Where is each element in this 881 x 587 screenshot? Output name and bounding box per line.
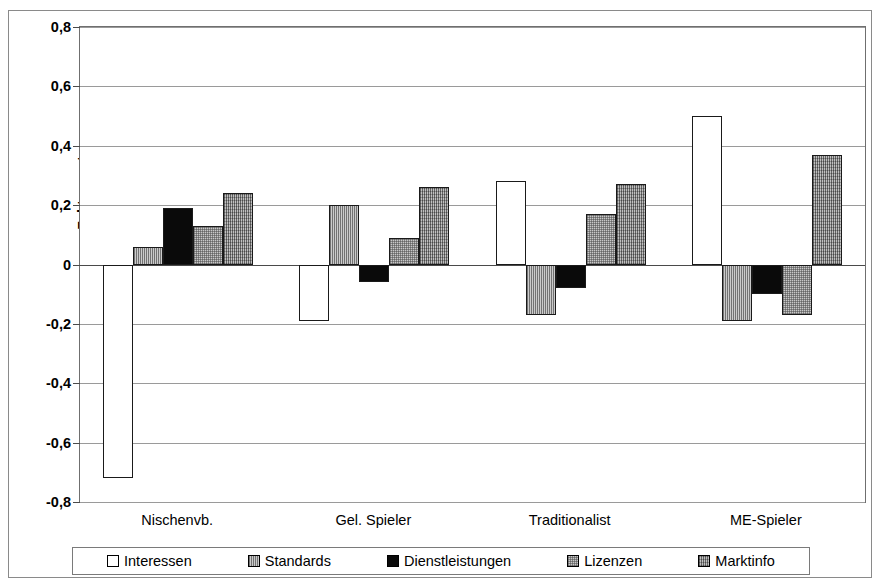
bar-traditionalist-marktinfo — [616, 184, 646, 264]
y-axis-tick-mark — [73, 86, 80, 87]
y-axis-tick-mark — [73, 146, 80, 147]
bar-group-gel-spieler — [276, 27, 472, 502]
y-axis-tick-label: -0,4 — [46, 375, 71, 391]
bar-gel-spieler-standards — [329, 205, 359, 264]
bar-me-spieler-interessen — [692, 116, 722, 264]
bar-traditionalist-interessen — [496, 181, 526, 264]
bar-gel-spieler-interessen — [299, 265, 329, 321]
legend-label: Dienstleistungen — [404, 553, 511, 569]
bar-group-me-spieler — [669, 27, 865, 502]
y-axis-tick-mark — [73, 27, 80, 28]
bar-gel-spieler-dienstleistungen — [359, 265, 389, 283]
bar-nischenvb--dienstleistungen — [163, 208, 193, 264]
legend-swatch-standards-icon — [248, 555, 260, 567]
y-axis-tick-mark — [73, 324, 80, 325]
y-axis-tick-label: -0,2 — [46, 316, 71, 332]
y-axis-tick-label: 0,8 — [51, 19, 71, 35]
y-axis-tick-label: 0,6 — [51, 78, 71, 94]
y-axis-tick-label: 0,2 — [51, 197, 71, 213]
bar-gel-spieler-marktinfo — [419, 187, 449, 264]
legend-swatch-marktinfo-icon — [698, 555, 710, 567]
gridline — [80, 502, 865, 503]
bar-me-spieler-lizenzen — [782, 265, 812, 315]
y-axis-tick-label: -0,8 — [46, 494, 71, 510]
bar-traditionalist-dienstleistungen — [556, 265, 586, 289]
y-axis-tick-label: 0 — [63, 257, 71, 273]
bar-nischenvb--interessen — [103, 265, 133, 479]
legend-label: Standards — [265, 553, 331, 569]
bar-nischenvb--marktinfo — [223, 193, 253, 264]
legend-item-lizenzen[interactable]: Lizenzen — [567, 553, 642, 569]
y-axis-tick-mark — [73, 205, 80, 206]
bar-group-nischenvb- — [80, 27, 276, 502]
legend-label: Lizenzen — [584, 553, 642, 569]
bar-nischenvb--lizenzen — [193, 226, 223, 265]
y-axis-tick-mark — [73, 502, 80, 503]
legend-item-standards[interactable]: Standards — [248, 553, 331, 569]
x-axis-label-me-spieler: ME-Spieler — [730, 512, 802, 528]
y-axis-tick-mark — [73, 265, 80, 266]
legend-item-marktinfo[interactable]: Marktinfo — [698, 553, 775, 569]
legend-label: Interessen — [124, 553, 192, 569]
bar-gel-spieler-lizenzen — [389, 238, 419, 265]
legend-swatch-interessen-icon — [107, 555, 119, 567]
bar-me-spieler-marktinfo — [812, 155, 842, 265]
bar-group-traditionalist — [473, 27, 669, 502]
legend-item-dienstleistungen[interactable]: Dienstleistungen — [387, 553, 511, 569]
x-axis-label-nischenvb-: Nischenvb. — [141, 512, 213, 528]
x-axis-label-traditionalist: Traditionalist — [529, 512, 611, 528]
bar-traditionalist-standards — [526, 265, 556, 315]
y-axis-tick-label: 0,4 — [51, 138, 71, 154]
y-axis-tick-label: -0,6 — [46, 435, 71, 451]
chart-frame: Faktorwerte 0,80,60,40,20-0,2-0,4-0,6-0,… — [8, 10, 872, 578]
bar-me-spieler-dienstleistungen — [752, 265, 782, 295]
bar-nischenvb--standards — [133, 247, 163, 265]
x-axis-label-gel-spieler: Gel. Spieler — [335, 512, 411, 528]
plot-area: 0,80,60,40,20-0,2-0,4-0,6-0,8 — [79, 26, 866, 503]
legend-swatch-lizenzen-icon — [567, 555, 579, 567]
chart-legend: InteressenStandardsDienstleistungenLizen… — [72, 547, 810, 575]
y-axis-tick-mark — [73, 383, 80, 384]
bar-me-spieler-standards — [722, 265, 752, 321]
legend-label: Marktinfo — [715, 553, 775, 569]
bar-traditionalist-lizenzen — [586, 214, 616, 264]
y-axis-tick-mark — [73, 443, 80, 444]
legend-swatch-dienstleistungen-icon — [387, 555, 399, 567]
legend-item-interessen[interactable]: Interessen — [107, 553, 192, 569]
